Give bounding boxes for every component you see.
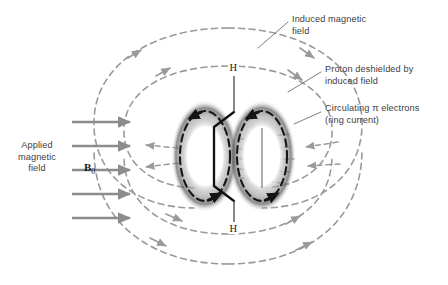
hydrogen-label-bottom: H — [228, 223, 239, 234]
annotation-circulating-pi-electrons: Circulating π electrons (ring current) — [325, 103, 419, 126]
b0-subscript: 0 — [91, 167, 95, 176]
annotation-proton-deshielded: Proton deshielded by induced field — [325, 64, 413, 87]
annotation-induced-magnetic-field: Induced magnetic field — [292, 14, 366, 37]
leader-ring-current — [294, 112, 321, 124]
leader-proton-deshielded — [288, 72, 321, 92]
annotation-applied-magnetic-field: Applied magnetic field — [6, 140, 68, 175]
ring-current-diagram: Induced magnetic field Proton deshielded… — [0, 0, 448, 285]
hydrogen-label-top: H — [228, 62, 239, 73]
return-field-arrows-right — [306, 142, 340, 166]
applied-field-arrows — [72, 122, 130, 218]
applied-field-symbol: B0 — [84, 161, 95, 176]
